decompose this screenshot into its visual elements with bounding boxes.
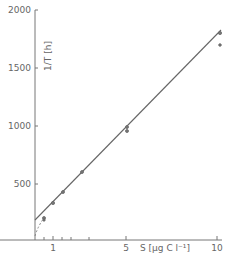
x-tick-label: 5	[123, 243, 129, 253]
x-tick-label: 1	[50, 243, 56, 253]
y-tick-label: 1000	[8, 121, 31, 131]
y-tick-label: 1500	[8, 63, 31, 73]
y-tick-label: 500	[14, 179, 31, 189]
data-points	[43, 31, 222, 221]
x-axis-title: S [µg C l⁻¹]	[140, 243, 190, 253]
x-ticks	[44, 236, 217, 240]
x-tick-label: 10	[211, 243, 223, 253]
y-axis-title: 1/T [h]	[43, 41, 53, 71]
y-tick-label: 2000	[8, 5, 31, 15]
chart: 2000 1500 1000 500 1 5 10 S [µg C l⁻¹] 1…	[0, 0, 232, 254]
